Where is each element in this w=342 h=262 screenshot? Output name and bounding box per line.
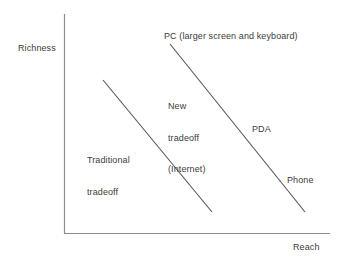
annotation-new-tradeoff-line-2: tradeoff	[168, 133, 206, 144]
annotation-traditional-tradeoff-line-1: Traditional	[87, 155, 130, 166]
annotation-new-tradeoff-line-1: New	[168, 101, 206, 112]
richness-reach-diagram: Richness Reach PC (larger screen and key…	[0, 0, 342, 262]
annotation-phone: Phone	[287, 175, 314, 186]
x-axis-label: Reach	[293, 242, 320, 253]
annotation-traditional-tradeoff: Traditional tradeoff	[87, 134, 130, 218]
y-axis-label: Richness	[18, 43, 56, 54]
annotation-new-tradeoff-line-3: (Internet)	[168, 164, 206, 175]
annotation-pda: PDA	[252, 124, 271, 135]
annotation-pc: PC (larger screen and keyboard)	[164, 31, 298, 42]
annotation-traditional-tradeoff-line-2: tradeoff	[87, 187, 130, 198]
annotation-new-tradeoff: New tradeoff (Internet)	[168, 80, 206, 196]
